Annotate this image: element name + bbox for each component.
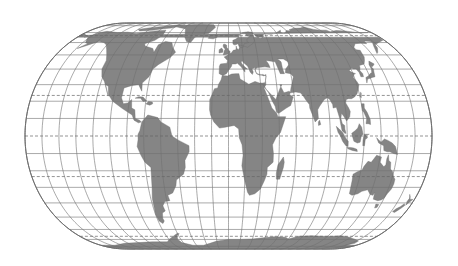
world-map-canvas xyxy=(0,0,458,266)
landmass-taiwan xyxy=(360,92,361,98)
world-map xyxy=(0,0,458,266)
